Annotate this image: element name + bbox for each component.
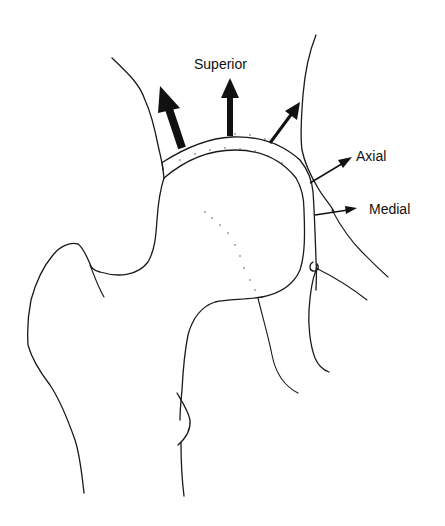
label-medial: Medial — [369, 202, 410, 216]
femoral-shaft-medial — [181, 443, 184, 496]
axial-arrow — [310, 157, 352, 183]
label-axial: Axial — [356, 149, 386, 163]
trabecular-dots — [204, 211, 256, 291]
ischium-line — [332, 210, 388, 277]
obturator-line — [316, 268, 367, 300]
medial-wall-line — [309, 270, 329, 372]
ilium-lateral-outline — [112, 58, 163, 170]
capsule-line — [258, 298, 298, 393]
superomedial-force-arrow — [270, 102, 300, 143]
lesser-trochanter-outline — [177, 393, 190, 445]
ilium-medial-outline — [301, 35, 334, 212]
acetabulum-left-rim — [162, 162, 164, 178]
femoral-neck-lower — [180, 297, 262, 420]
cartilage-stippling — [179, 133, 283, 164]
intertrochanteric-line — [90, 265, 104, 297]
hip-joint-diagram — [0, 0, 445, 526]
label-superior: Superior — [194, 57, 247, 71]
femoral-head-outline — [164, 150, 305, 297]
superolateral-force-arrow — [158, 86, 182, 148]
medial-arrow — [315, 206, 357, 215]
greater-trochanter-outline — [28, 243, 92, 493]
acetabular-notch — [310, 262, 318, 271]
femoral-neck-upper — [92, 178, 164, 275]
superior-force-arrow — [221, 78, 239, 136]
acetabulum-outer-arc — [163, 137, 316, 290]
